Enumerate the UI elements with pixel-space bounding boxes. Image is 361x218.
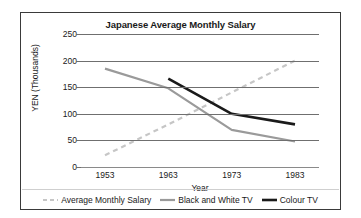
chart-figure: Japanese Average Monthly Salary YEN (Tho… [20, 12, 341, 210]
x-tick-label: 1973 [222, 170, 241, 180]
x-axis-label: Year [81, 183, 319, 193]
gridline [81, 87, 319, 88]
y-tick-mark [76, 140, 81, 141]
gridline [81, 34, 319, 35]
series-line [105, 69, 295, 142]
legend-label: Average Monthly Salary [61, 195, 151, 205]
legend-swatch-icon [262, 197, 277, 203]
y-tick-mark [76, 34, 81, 35]
y-tick-label: 250 [43, 29, 77, 39]
x-tick-label: 1983 [286, 170, 305, 180]
y-axis-label: YEN (Thousands) [30, 28, 40, 128]
legend-item[interactable]: Average Monthly Salary [43, 195, 151, 205]
series-lines [81, 34, 319, 167]
gridline [81, 140, 319, 141]
x-axis-tick-labels: 1953196319731983 [81, 170, 319, 184]
gridline [81, 114, 319, 115]
legend-item[interactable]: Black and White TV [160, 195, 253, 205]
legend-swatch-icon [43, 197, 58, 203]
y-tick-label: 100 [43, 109, 77, 119]
legend-label: Colour TV [280, 195, 318, 205]
gridline [81, 167, 319, 168]
y-tick-mark [76, 114, 81, 115]
gridline [81, 61, 319, 62]
y-axis-tick-labels: 050100150200250 [43, 13, 77, 209]
x-tick-label: 1963 [159, 170, 178, 180]
y-tick-label: 150 [43, 82, 77, 92]
y-tick-mark [76, 61, 81, 62]
y-tick-mark [76, 167, 81, 168]
plot-area [81, 34, 319, 167]
y-tick-mark [76, 87, 81, 88]
legend-divider [22, 189, 339, 190]
y-tick-label: 200 [43, 56, 77, 66]
plot-area-wrapper: YEN (Thousands) 050100150200250 19531963… [21, 13, 340, 209]
legend-item[interactable]: Colour TV [262, 195, 318, 205]
legend-label: Black and White TV [178, 195, 253, 205]
legend-swatch-icon [160, 197, 175, 203]
x-tick-label: 1953 [96, 170, 115, 180]
y-tick-label: 50 [43, 135, 77, 145]
y-tick-label: 0 [43, 162, 77, 172]
chart-legend: Average Monthly SalaryBlack and White TV… [21, 195, 340, 205]
